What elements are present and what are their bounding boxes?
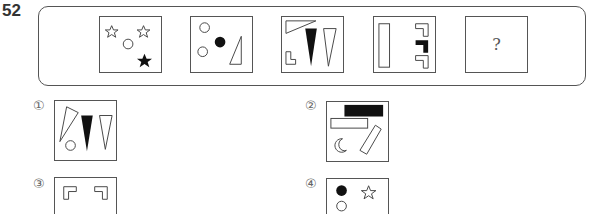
outline-star-icon [137,26,150,38]
outline-bracket-icon [416,56,429,69]
outline-circle-icon [123,39,133,49]
question-mark: ? [466,17,527,72]
outline-triangle-icon [230,36,242,64]
option-1-figure [55,101,116,160]
sequence-cell-4 [373,16,436,73]
filled-bracket-icon [416,40,429,53]
outline-star-icon [105,26,118,38]
filled-star-icon [137,54,152,68]
outline-circle-icon [66,141,76,151]
outline-circle-icon [337,201,347,211]
filled-rectangle-icon [344,105,383,117]
option-4-label[interactable]: ④ [305,176,317,191]
sequence-cell-2 [190,16,253,73]
circles-triangle-figure [191,17,252,72]
outline-circle-icon [198,47,208,57]
outline-tilted-triangle-icon [60,107,78,142]
stars-circle-figure [100,17,161,72]
option-2[interactable] [326,101,389,162]
option-3[interactable] [54,177,117,214]
option-4-figure [327,179,388,214]
outline-bracket-icon [64,187,77,200]
rect-brackets-figure [374,17,435,72]
filled-circle-icon [336,185,347,196]
question-number: 52 [2,1,21,21]
triangles-L-figure [282,17,343,72]
sequence-cell-1 [99,16,162,73]
sequence-cell-3 [281,16,344,73]
outline-star-icon [361,186,376,199]
option-1-label[interactable]: ① [33,98,45,113]
outline-L-icon [286,52,296,65]
filled-circle-icon [215,37,226,48]
option-3-label[interactable]: ③ [33,176,45,191]
option-2-figure [327,102,388,161]
sequence-cell-answer: ? [465,16,528,73]
outline-rectangle-icon [379,24,390,67]
option-3-figure [55,178,116,214]
filled-inverted-triangle-icon [305,29,317,67]
option-4[interactable] [326,178,389,214]
outline-inverted-triangle-icon [324,29,337,67]
outline-tilted-rectangle-icon [360,125,381,154]
outline-rectangle-icon [331,118,368,128]
filled-inverted-triangle-icon [81,116,93,152]
outline-crescent-icon [335,139,346,153]
outline-inverted-triangle-icon [100,116,113,150]
outline-bracket-icon [95,187,108,200]
outline-circle-icon [200,23,210,33]
option-1[interactable] [54,100,117,161]
option-2-label[interactable]: ② [305,98,317,113]
outline-bracket-icon [416,24,429,37]
